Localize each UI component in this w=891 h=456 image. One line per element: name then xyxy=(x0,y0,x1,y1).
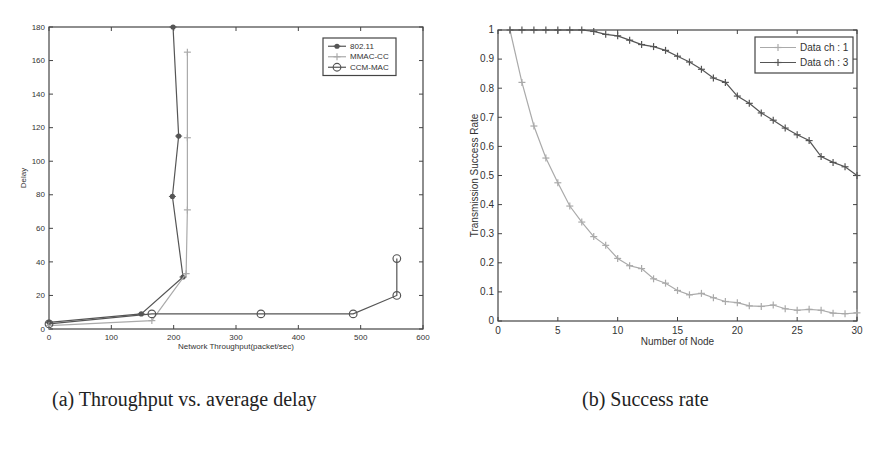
y-tick-label: 120 xyxy=(32,123,46,132)
y-tick-label: 140 xyxy=(32,90,46,99)
y-tick-label: 0.3 xyxy=(480,228,494,239)
caption-b: (b) Success rate xyxy=(582,388,709,411)
y-tick-label: 40 xyxy=(36,258,45,267)
legend-label: 802.11 xyxy=(350,42,374,51)
x-axis-label: Network Throughput(packet/sec) xyxy=(178,342,294,351)
chart-b-plot: 05101520253000.10.20.30.40.50.60.70.80.9… xyxy=(445,0,891,370)
x-axis-label: Number of Node xyxy=(641,336,715,347)
y-tick-label: 0.4 xyxy=(480,199,494,210)
legend-label: CCM-MAC xyxy=(350,63,389,72)
y-axis-label: Transmission Success Rate xyxy=(469,113,480,237)
legend-label: Data ch : 3 xyxy=(800,57,849,68)
y-tick-label: 60 xyxy=(36,224,45,233)
y-tick-label: 0.9 xyxy=(480,53,494,64)
x-tick-label: 25 xyxy=(792,325,804,336)
y-tick-label: 1 xyxy=(488,24,494,35)
legend-label: Data ch : 1 xyxy=(800,42,849,53)
x-tick-label: 600 xyxy=(416,333,430,342)
x-tick-label: 15 xyxy=(672,325,684,336)
caption-a: (a) Throughput vs. average delay xyxy=(52,388,317,411)
y-tick-label: 0.5 xyxy=(480,170,494,181)
x-tick-label: 0 xyxy=(47,333,52,342)
y-tick-label: 80 xyxy=(36,190,45,199)
plot-area xyxy=(498,30,857,321)
y-tick-label: 100 xyxy=(32,157,46,166)
y-tick-label: 0.2 xyxy=(480,257,494,268)
x-tick-label: 30 xyxy=(851,325,863,336)
x-tick-label: 400 xyxy=(292,333,306,342)
x-tick-label: 10 xyxy=(612,325,624,336)
legend-label: MMAC-CC xyxy=(350,52,389,61)
x-tick-label: 300 xyxy=(229,333,243,342)
x-tick-label: 20 xyxy=(732,325,744,336)
y-tick-label: 180 xyxy=(32,23,46,32)
legend: Data ch : 1Data ch : 3 xyxy=(755,37,853,73)
y-tick-label: 20 xyxy=(36,291,45,300)
figure-a-throughput-delay: 0100200300400500600020406080100120140160… xyxy=(0,0,445,370)
y-tick-label: 0.7 xyxy=(480,112,494,123)
y-tick-label: 0 xyxy=(41,325,46,334)
y-tick-label: 0.6 xyxy=(480,141,494,152)
chart-a-plot: 0100200300400500600020406080100120140160… xyxy=(0,0,445,370)
y-tick-label: 160 xyxy=(32,56,46,65)
y-axis-label: Delay xyxy=(19,168,28,188)
x-tick-label: 500 xyxy=(354,333,368,342)
x-tick-label: 0 xyxy=(495,325,501,336)
legend-item: MMAC-CC xyxy=(328,52,389,61)
figure-b-success-rate: 05101520253000.10.20.30.40.50.60.70.80.9… xyxy=(445,0,891,370)
y-tick-label: 0.8 xyxy=(480,83,494,94)
y-tick-label: 0 xyxy=(488,315,494,326)
legend: 802.11MMAC-CCCCM-MAC xyxy=(323,38,396,76)
y-tick-label: 0.1 xyxy=(480,286,494,297)
x-tick-label: 200 xyxy=(167,333,181,342)
x-tick-label: 100 xyxy=(105,333,119,342)
x-tick-label: 5 xyxy=(555,325,561,336)
